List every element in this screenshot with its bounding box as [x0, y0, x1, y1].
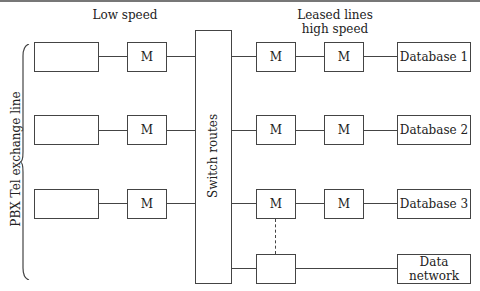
database-3-box: Database 3 — [397, 189, 471, 219]
modem-right-b-3: M — [324, 189, 364, 219]
connector — [166, 130, 195, 131]
connector — [166, 203, 195, 204]
connector — [363, 56, 397, 57]
modem-right-b-1: M — [324, 42, 364, 72]
connector — [231, 203, 256, 204]
connector — [295, 268, 397, 269]
connector — [295, 130, 324, 131]
modem-right-a-3: M — [256, 189, 296, 219]
database-2-box: Database 2 — [397, 115, 471, 145]
high-speed-label: high speed — [290, 22, 380, 37]
data-network-box: Data network — [397, 254, 471, 284]
top-border — [0, 0, 480, 2]
gateway-box — [256, 254, 296, 284]
leased-lines-label: Leased lines — [290, 8, 380, 23]
database-1-box: Database 1 — [397, 42, 471, 72]
modem-left-1: M — [127, 42, 167, 72]
modem-left-3: M — [127, 189, 167, 219]
terminal-box-3 — [34, 189, 99, 219]
terminal-box-2 — [34, 115, 99, 145]
connector — [363, 203, 397, 204]
switch-routes-label: Switch routes — [206, 114, 220, 198]
modem-left-2: M — [127, 115, 167, 145]
low-speed-label: Low speed — [80, 8, 170, 23]
dashed-link — [275, 219, 276, 254]
modem-right-a-1: M — [256, 42, 296, 72]
connector — [98, 56, 127, 57]
connector — [295, 56, 324, 57]
brace-icon — [20, 44, 30, 280]
connector — [166, 56, 195, 57]
modem-right-b-2: M — [324, 115, 364, 145]
modem-right-a-2: M — [256, 115, 296, 145]
connector — [98, 203, 127, 204]
connector — [231, 130, 256, 131]
data-network-line1: Data — [420, 255, 449, 269]
connector — [295, 203, 324, 204]
connector — [363, 130, 397, 131]
connector — [231, 268, 256, 269]
connector — [231, 56, 256, 57]
connector — [98, 130, 127, 131]
data-network-line2: network — [409, 269, 459, 283]
terminal-box-1 — [34, 42, 99, 72]
